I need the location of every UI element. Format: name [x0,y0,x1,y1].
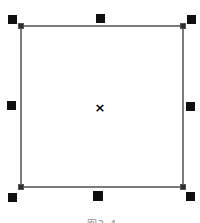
resize-handle-top-right[interactable] [187,15,196,24]
drawing-canvas[interactable]: × 图2-4 [0,0,200,223]
resize-handle-middle-right[interactable] [186,102,195,111]
corner-node-top-right[interactable] [180,23,186,29]
corner-node-top-left[interactable] [18,23,24,29]
resize-handle-middle-left[interactable] [7,101,16,110]
resize-handle-top-center[interactable] [96,14,105,23]
resize-handle-top-left[interactable] [8,15,17,24]
resize-handle-bottom-center[interactable] [93,191,103,201]
figure-caption: 图2-4 [87,216,117,223]
corner-node-bottom-right[interactable] [180,184,186,190]
resize-handle-bottom-right[interactable] [186,192,195,201]
resize-handle-bottom-left[interactable] [8,193,17,202]
object-center-marker-icon[interactable]: × [95,101,106,114]
corner-node-bottom-left[interactable] [18,184,24,190]
